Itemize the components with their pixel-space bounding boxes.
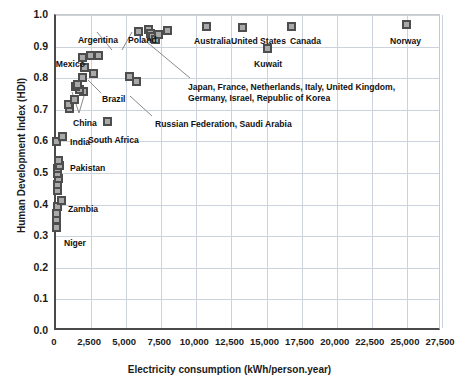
y-tick-label: 0.6 — [6, 134, 48, 146]
x-tick-label: 2,500 — [77, 336, 101, 347]
y-tick-label: 0.3 — [6, 229, 48, 241]
y-tick-label: 0.8 — [6, 71, 48, 83]
x-tick-label: 20,000 — [320, 336, 349, 347]
x-tick-label: 5,000 — [112, 336, 136, 347]
x-tick-label: 10,000 — [180, 336, 209, 347]
x-tick-label: 12,500 — [215, 336, 244, 347]
scatter-chart-figure: ArgentinaPolandMexicoBrazilChinaIndiaPak… — [0, 0, 459, 392]
y-axis-title: Human Development Index (HDI) — [16, 36, 27, 276]
x-tick-label: 27,500 — [425, 336, 454, 347]
y-tick-label: 0.4 — [6, 198, 48, 210]
y-tick-label: 1.0 — [6, 8, 48, 20]
y-tick-label: 0.0 — [6, 324, 48, 336]
x-axis-title: Electricity consumption (kWh/person.year… — [0, 364, 459, 375]
x-tick-label: 15,000 — [250, 336, 279, 347]
x-tick-label: 25,000 — [390, 336, 419, 347]
y-tick-label: 0.7 — [6, 103, 48, 115]
x-tick-label: 0 — [51, 336, 56, 347]
x-tick-label: 22,500 — [355, 336, 384, 347]
y-tick-label: 0.1 — [6, 292, 48, 304]
y-tick-label: 0.9 — [6, 40, 48, 52]
y-tick-label: 0.2 — [6, 261, 48, 273]
y-axis-tick-layer: 0.00.10.20.30.40.50.60.70.80.91.0 — [0, 14, 459, 330]
y-tick-label: 0.5 — [6, 166, 48, 178]
x-tick-label: 7,500 — [147, 336, 171, 347]
x-tick-label: 17,500 — [285, 336, 314, 347]
